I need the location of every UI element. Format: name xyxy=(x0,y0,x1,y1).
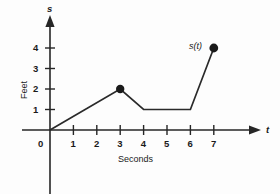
data-point-marker-7-4 xyxy=(209,44,218,53)
x-tick-label-4: 4 xyxy=(141,139,146,149)
x-tick-label-1: 1 xyxy=(71,139,76,149)
x-tick-label-3: 3 xyxy=(117,139,122,149)
y-tick-label-3: 3 xyxy=(33,64,38,74)
function-annotation-label: s(t) xyxy=(189,42,202,51)
x-axis-variable-label: t xyxy=(266,125,269,135)
plot-area xyxy=(0,0,280,194)
x-tick-label-2: 2 xyxy=(94,139,99,149)
y-axis-arrow-icon xyxy=(45,15,54,27)
y-tick-label-4: 4 xyxy=(33,43,38,53)
y-tick-label-2: 2 xyxy=(33,84,38,94)
position-time-graph-figure: s t 4 3 2 1 0 1 2 3 4 5 6 7 Feet Seconds… xyxy=(0,0,280,194)
x-tick-label-0: 0 xyxy=(38,139,43,149)
s-of-t-curve xyxy=(50,48,214,130)
y-axis-variable-label: s xyxy=(47,4,52,14)
x-tick-label-7: 7 xyxy=(211,139,216,149)
y-axis-title-feet: Feet xyxy=(20,81,29,99)
data-point-marker-3-2 xyxy=(116,85,124,93)
x-tick-label-5: 5 xyxy=(164,139,169,149)
x-axis-arrow-icon xyxy=(249,125,261,134)
y-tick-label-1: 1 xyxy=(33,105,38,115)
x-tick-label-6: 6 xyxy=(188,139,193,149)
x-axis-title-seconds: Seconds xyxy=(118,155,153,164)
